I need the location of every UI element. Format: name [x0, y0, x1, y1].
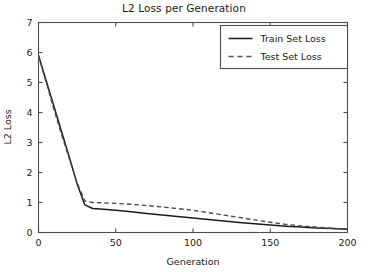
plot-area: 01234567 050100150200 Train Set LossTest… — [0, 0, 368, 272]
legend-label-1: Train Set Loss — [260, 33, 326, 44]
y-tick-label: 2 — [26, 167, 32, 178]
x-tick-label: 50 — [110, 237, 122, 248]
chart-legend: Train Set LossTest Set Loss — [221, 26, 348, 69]
y-tick-label: 7 — [26, 17, 32, 28]
x-tick-label: 100 — [184, 237, 202, 248]
y-axis-label: L2 Loss — [2, 109, 13, 144]
chart-figure: L2 Loss per Generation 01234567 05010015… — [0, 0, 368, 272]
data-series-group — [39, 56, 348, 230]
x-axis-label: Generation — [167, 256, 220, 267]
x-tick-label: 150 — [261, 237, 279, 248]
y-tick-label: 0 — [26, 227, 32, 238]
y-tick-label: 6 — [26, 47, 32, 58]
series-line-train-set-loss — [39, 56, 348, 230]
y-tick-label: 3 — [26, 137, 32, 148]
y-tick-label: 4 — [26, 107, 32, 118]
x-tick-label: 200 — [338, 237, 356, 248]
legend-label-2: Test Set Loss — [260, 51, 322, 62]
y-tick-label: 1 — [26, 197, 32, 208]
y-tick-label: 5 — [26, 77, 32, 88]
x-tick-label: 0 — [35, 237, 41, 248]
